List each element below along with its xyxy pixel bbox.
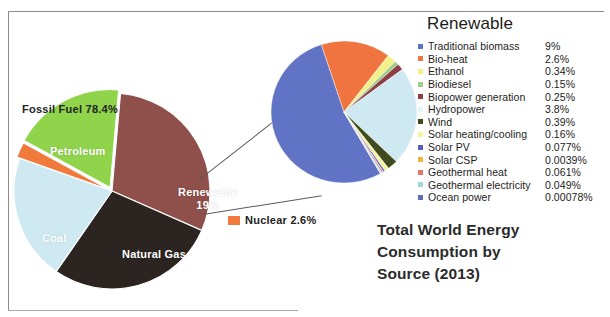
renewable-detail-pie-svg: Traditional biomass: 9%Bio-heat: 2.6%Eth… [270,36,422,186]
legend-color-swatch [418,94,423,99]
annotation-nuclear-text: Nuclear 2.6% [245,214,316,226]
legend-color-swatch [418,170,423,175]
legend-item-label: Solar CSP [428,154,545,166]
legend-item-value: 0.077% [545,141,581,153]
legend-item: Bio-heat2.6% [418,53,604,66]
legend-item-value: 0.049% [545,179,581,191]
legend-item: Solar CSP0.0039% [418,153,604,166]
legend-item-value: 0.15% [545,78,575,90]
legend-item-label: Geothermal electricity [428,179,545,191]
chart-title-line-2: Consumption by [377,241,567,263]
legend-color-swatch [418,107,423,112]
legend-color-swatch [418,56,423,61]
legend-item-label: Bio-heat [428,53,545,65]
legend-item: Biodiesel0.15% [418,78,604,91]
energy-consumption-figure: Petroleum: 31.1%Coal: 28.9%Natural Gas: … [0,0,610,317]
legend-item-value: 0.0039% [545,154,587,166]
legend-color-swatch [418,82,423,87]
legend-item: Ethanol0.34% [418,65,604,78]
legend-item-label: Hydropower [428,103,545,115]
legend-item-value: 9% [545,40,560,52]
renewable-legend: Renewable Traditional biomass9%Bio-heat2… [418,14,604,204]
chart-title: Total World Energy Consumption by Source… [377,219,567,285]
legend-item-label: Wind [428,116,545,128]
legend-item: Ocean power0.00078% [418,191,604,204]
legend-item-value: 3.8% [545,103,569,115]
legend-item-value: 0.34% [545,65,575,77]
legend-item: Geothermal electricity0.049% [418,179,604,192]
legend-title: Renewable [427,14,604,34]
legend-item-value: 0.00078% [545,191,593,203]
legend-item-label: Biodiesel [428,78,545,90]
nuclear-color-swatch [228,216,240,225]
legend-item-value: 0.39% [545,116,575,128]
legend-item-value: 0.16% [545,128,575,140]
legend-color-swatch [418,157,423,162]
leader-line-lower [203,195,322,215]
legend-item: Solar heating/cooling0.16% [418,128,604,141]
legend-item: Solar PV0.077% [418,141,604,154]
legend-item-label: Solar PV [428,141,545,153]
figure-border-left [8,11,9,311]
legend-item-label: Ocean power [428,191,545,203]
figure-border-top [8,11,604,12]
legend-color-swatch [418,44,423,49]
legend-color-swatch [418,69,423,74]
legend-color-swatch [418,132,423,137]
legend-item-value: 2.6% [545,53,569,65]
legend-item-label: Solar heating/cooling [428,128,545,140]
legend-item: Wind0.39% [418,116,604,129]
legend-item-label: Ethanol [428,65,545,77]
legend-color-swatch [418,145,423,150]
main-pie-chart: Petroleum: 31.1%Coal: 28.9%Natural Gas: … [12,88,217,293]
main-pie-svg: Petroleum: 31.1%Coal: 28.9%Natural Gas: … [12,88,217,293]
legend-item-value: 0.25% [545,91,575,103]
legend-item: Hydropower3.8% [418,103,604,116]
annotation-fossil-fuel: Fossil Fuel 78.4% [22,103,118,115]
legend-color-swatch [418,182,423,187]
legend-item-label: Geothermal heat [428,166,545,178]
legend-item: Traditional biomass9% [418,40,604,53]
chart-title-line-1: Total World Energy [377,219,567,241]
annotation-nuclear: Nuclear 2.6% [228,214,316,226]
legend-item-value: 0.061% [545,166,581,178]
legend-color-swatch [418,119,423,124]
chart-title-line-3: Source (2013) [377,263,567,285]
legend-rows: Traditional biomass9%Bio-heat2.6%Ethanol… [418,40,604,204]
legend-item-label: Traditional biomass [428,40,545,52]
renewable-detail-pie-chart: Traditional biomass: 9%Bio-heat: 2.6%Eth… [270,36,422,186]
legend-color-swatch [418,195,423,200]
legend-item: Biopower generation0.25% [418,90,604,103]
figure-border-bottom [8,310,298,311]
legend-item-label: Biopower generation [428,91,545,103]
legend-item: Geothermal heat0.061% [418,166,604,179]
